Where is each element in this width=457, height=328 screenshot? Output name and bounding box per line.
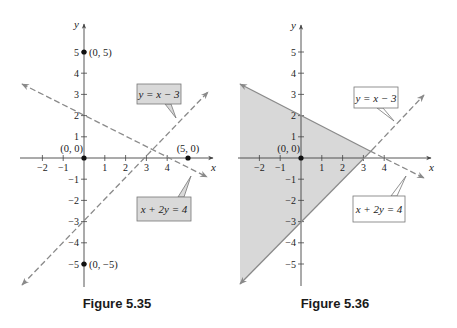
x-tick-label: 1 — [102, 162, 107, 173]
x-tick-label: 4 — [165, 162, 170, 173]
y-tick-label: −5 — [68, 259, 79, 270]
equation-callout: x + 2y = 4 — [137, 176, 191, 221]
x-tick-label: 1 — [319, 162, 324, 173]
line-y-x-3 — [22, 92, 208, 285]
x-axis-label: x — [428, 161, 434, 173]
line-x-2y-4 — [370, 151, 424, 178]
point-marker — [81, 261, 86, 266]
point-label: (0, 0) — [277, 143, 300, 155]
y-tick-label: 3 — [74, 89, 79, 100]
graphs-canvas: xy−2−11234−5−4−3−2−112345(0, 0)(0, 5)(5,… — [0, 0, 457, 328]
callout-equation-text: x + 2y = 4 — [140, 203, 188, 215]
y-tick-label: −3 — [285, 216, 296, 227]
y-axis-label: y — [290, 19, 296, 31]
y-tick-label: −1 — [68, 174, 79, 185]
figure-stage: xy−2−11234−5−4−3−2−112345(0, 0)(0, 5)(5,… — [0, 0, 457, 328]
y-tick-label: 5 — [74, 47, 79, 58]
y-tick-label: 3 — [291, 89, 296, 100]
x-tick-label: −2 — [254, 162, 265, 173]
point-marker — [81, 155, 86, 160]
point-label: (0, 5) — [89, 47, 112, 59]
y-tick-label: 2 — [74, 110, 79, 121]
x-tick-label: −2 — [37, 162, 48, 173]
x-tick-label: −1 — [58, 162, 69, 173]
x-tick-label: 2 — [123, 162, 128, 173]
equation-callout: y = x − 3 — [137, 84, 181, 118]
caption-figure-5-35: Figure 5.35 — [83, 296, 152, 311]
point-label: (0, −5) — [89, 259, 118, 271]
y-tick-label: −4 — [68, 237, 79, 248]
y-tick-label: −2 — [285, 195, 296, 206]
y-tick-label: −3 — [68, 216, 79, 227]
y-tick-label: 4 — [74, 68, 79, 79]
y-tick-label: 1 — [291, 131, 296, 142]
point-marker — [185, 155, 190, 160]
point-marker — [81, 49, 86, 54]
callout-equation-text: y = x − 3 — [137, 88, 180, 100]
y-axis-label: y — [73, 18, 79, 30]
y-tick-label: −1 — [285, 174, 296, 185]
y-tick-label: 4 — [291, 68, 296, 79]
callout-equation-text: x + 2y = 4 — [355, 203, 403, 215]
fig-5-36-graph: xy−2−11234−5−4−3−2−112345(0, 0)y = x − 3… — [238, 19, 434, 286]
y-tick-label: −2 — [68, 195, 79, 206]
callout-equation-text: y = x − 3 — [354, 92, 397, 104]
shaded-region — [240, 84, 370, 284]
point-label: (5, 0) — [177, 143, 200, 155]
x-tick-label: 3 — [144, 162, 149, 173]
x-tick-label: 4 — [382, 162, 387, 173]
caption-figure-5-36: Figure 5.36 — [301, 296, 370, 311]
x-tick-label: 2 — [340, 162, 345, 173]
y-tick-label: 1 — [74, 131, 79, 142]
x-axis-label: x — [210, 161, 216, 173]
equation-callout: y = x − 3 — [354, 87, 398, 121]
y-tick-label: 5 — [291, 47, 296, 58]
y-tick-label: −4 — [285, 237, 296, 248]
x-tick-label: 3 — [361, 162, 366, 173]
equation-callout: x + 2y = 4 — [353, 176, 406, 222]
x-tick-label: −1 — [275, 162, 286, 173]
y-tick-label: −5 — [285, 259, 296, 270]
fig-5-35-graph: xy−2−11234−5−4−3−2−112345(0, 0)(0, 5)(5,… — [20, 18, 216, 287]
point-label: (0, 0) — [60, 143, 83, 155]
point-marker — [298, 155, 303, 160]
